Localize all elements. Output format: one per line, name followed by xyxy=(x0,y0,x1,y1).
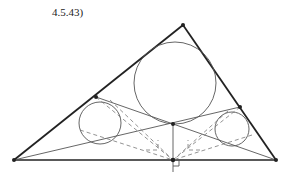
point-p xyxy=(171,122,175,126)
point-e xyxy=(94,95,98,99)
vertex-c xyxy=(181,23,185,27)
point-d xyxy=(171,158,175,162)
left-small-circle xyxy=(79,102,121,144)
dashed-lines xyxy=(80,97,252,160)
circles xyxy=(79,42,249,146)
geometry-diagram xyxy=(0,0,285,190)
point-f xyxy=(238,105,242,109)
side-bc xyxy=(183,25,276,160)
points xyxy=(12,23,278,162)
vertex-a xyxy=(12,158,16,162)
large-circle xyxy=(134,42,216,124)
vertex-b xyxy=(274,158,278,162)
